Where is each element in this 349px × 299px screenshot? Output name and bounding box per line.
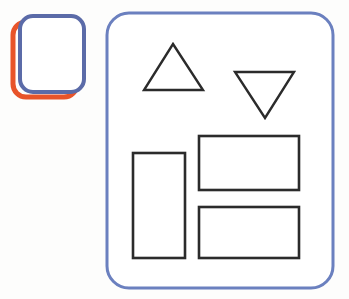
rect-wide-bottom-shape[interactable] <box>199 207 299 258</box>
shapes-diagram <box>0 0 349 299</box>
thumbnail-front-square[interactable] <box>20 16 84 92</box>
diagram-canvas: Shapes Diagram blue rounded square orang… <box>0 0 349 299</box>
rect-wide-top-shape[interactable] <box>199 136 299 190</box>
rect-tall-left-shape[interactable] <box>133 153 185 258</box>
